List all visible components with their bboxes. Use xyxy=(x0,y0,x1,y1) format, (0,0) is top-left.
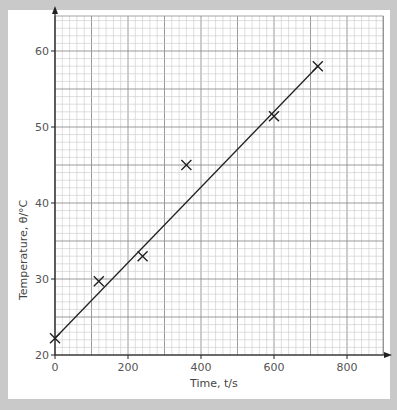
x-tick-label: 800 xyxy=(337,361,358,374)
y-tick-label: 30 xyxy=(35,273,49,286)
y-axis-title: Temperature, θ/°C xyxy=(17,199,30,301)
x-axis-title: Time, t/s xyxy=(189,377,238,390)
y-tick-label: 40 xyxy=(35,197,49,210)
y-tick-label: 50 xyxy=(35,121,49,134)
x-tick-label: 600 xyxy=(264,361,285,374)
y-tick-label: 60 xyxy=(35,45,49,58)
x-tick-label: 0 xyxy=(52,361,59,374)
x-tick-label: 200 xyxy=(118,361,139,374)
x-tick-label: 400 xyxy=(191,361,212,374)
y-tick-label: 20 xyxy=(35,349,49,362)
chart: 02004006008002030405060 Time, t/s Temper… xyxy=(0,0,397,410)
chart-grid xyxy=(55,16,384,355)
